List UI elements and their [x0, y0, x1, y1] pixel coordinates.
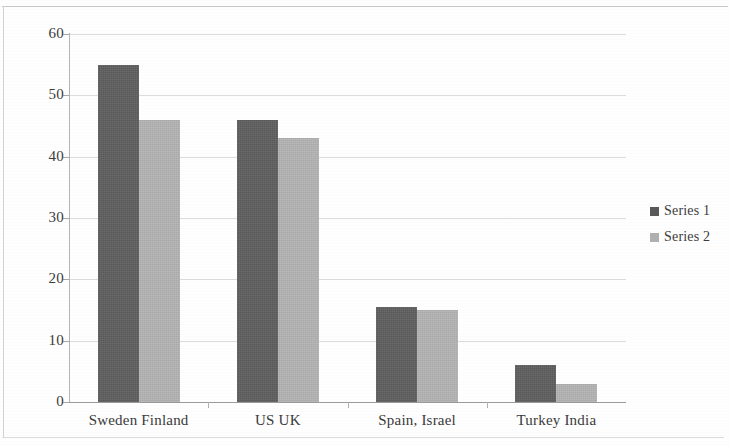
- bar-chart: 0102030405060 Sweden FinlandUS UKSpain, …: [0, 0, 730, 445]
- chart-legend: Series 1 Series 2: [650, 198, 728, 250]
- x-axis-label-4: Turkey India: [487, 412, 626, 429]
- legend-label-series-1: Series 1: [664, 203, 710, 219]
- legend-item-series-2[interactable]: Series 2: [650, 224, 728, 250]
- legend-item-series-1[interactable]: Series 1: [650, 198, 728, 224]
- series-1-swatch: [650, 207, 659, 216]
- x-axis-tick: [208, 402, 209, 408]
- y-axis-tick-label: 10: [4, 333, 64, 348]
- legend-label-series-2: Series 2: [664, 229, 710, 245]
- bar-1-2[interactable]: [237, 120, 278, 402]
- bar-2-3[interactable]: [417, 310, 458, 402]
- plot-area: [69, 34, 626, 402]
- x-axis-label-2: US UK: [208, 412, 347, 429]
- bar-1-3[interactable]: [376, 307, 417, 402]
- y-axis-tick-label: 30: [4, 210, 64, 225]
- x-axis-label-1: Sweden Finland: [69, 412, 208, 429]
- y-axis-tick-label: 0: [4, 394, 64, 409]
- series-2-swatch: [650, 233, 659, 242]
- bar-2-1[interactable]: [139, 120, 180, 402]
- bar-1-1[interactable]: [98, 65, 139, 402]
- y-axis-tick-label: 20: [4, 271, 64, 286]
- chart-page: 0102030405060 Sweden FinlandUS UKSpain, …: [0, 0, 730, 445]
- x-axis-label-3: Spain, Israel: [348, 412, 487, 429]
- y-axis-tick-label: 40: [4, 149, 64, 164]
- x-axis-tick: [487, 402, 488, 408]
- y-axis-tick-label: 60: [4, 26, 64, 41]
- y-axis-tick-label: 50: [4, 87, 64, 102]
- bar-2-4[interactable]: [556, 384, 597, 402]
- x-axis-tick: [348, 402, 349, 408]
- bar-2-2[interactable]: [278, 138, 319, 402]
- bar-1-4[interactable]: [515, 365, 556, 402]
